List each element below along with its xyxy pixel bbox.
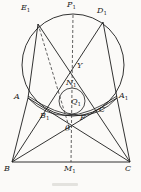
segment-AE1 xyxy=(28,24,38,98)
caption-remnant xyxy=(52,183,78,186)
label-F: F xyxy=(80,114,86,123)
dashed-P1M1 xyxy=(71,15,73,162)
label-B: B xyxy=(4,165,10,174)
segment-A1D1 xyxy=(103,22,117,98)
segment-D1B xyxy=(12,22,103,162)
segment-CA xyxy=(28,98,130,162)
label-A: A xyxy=(14,93,20,102)
label-C: C xyxy=(125,165,131,174)
label-M1: M1 xyxy=(64,165,76,174)
label-theta: θ xyxy=(65,125,70,134)
label-A1: A1 xyxy=(119,92,128,101)
label-N1: N1 xyxy=(66,79,77,88)
label-D1: D1 xyxy=(97,7,107,16)
label-E1: E1 xyxy=(21,4,30,13)
label-B1: B1 xyxy=(40,112,49,121)
label-P1: P1 xyxy=(67,1,76,10)
label-Q1: Q1 xyxy=(71,98,81,107)
segment-BA xyxy=(12,98,28,162)
label-Y: Y xyxy=(77,62,82,71)
label-C-mid: C xyxy=(99,106,105,115)
geometry-figure: E1 P1 D1 A A1 Y N1 Q1 B1 C F θ B M1 C xyxy=(0,0,141,192)
